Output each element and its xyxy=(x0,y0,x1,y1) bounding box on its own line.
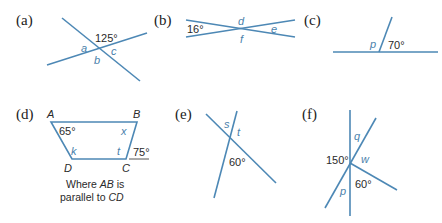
figure-label-a: (a) xyxy=(16,12,33,29)
unknown-p-f: p xyxy=(339,185,346,197)
unknown-t: t xyxy=(117,145,121,157)
unknown-k: k xyxy=(71,145,77,157)
vertex-D: D xyxy=(64,162,72,174)
figure-label-d: (d) xyxy=(16,106,34,123)
unknown-a: a xyxy=(81,42,87,54)
line-e2 xyxy=(206,114,276,183)
figure-c: (c) p 70° xyxy=(304,12,438,52)
line-a1 xyxy=(62,18,140,81)
given-angle-60-f: 60° xyxy=(355,178,372,190)
unknown-b: b xyxy=(94,54,100,66)
unknown-d: d xyxy=(238,15,245,27)
unknown-x: x xyxy=(120,125,127,137)
unknown-w: w xyxy=(361,153,370,165)
figure-e: (e) s t 60° xyxy=(175,106,276,198)
unknown-s: s xyxy=(224,118,230,130)
figure-label-b: (b) xyxy=(154,12,172,29)
figure-d: (d) A B C D 65° 75° x k t Where AB is pa… xyxy=(16,106,150,203)
figure-label-c: (c) xyxy=(304,12,321,29)
given-angle-75: 75° xyxy=(133,146,150,158)
given-angle-125: 125° xyxy=(95,32,118,44)
figure-a: (a) 125° a b c xyxy=(16,12,147,81)
figure-label-e: (e) xyxy=(175,106,192,123)
given-angle-70: 70° xyxy=(388,39,405,51)
given-angle-16: 16° xyxy=(187,23,204,35)
vertex-A: A xyxy=(46,108,54,120)
unknown-p: p xyxy=(369,38,376,50)
unknown-t-e: t xyxy=(237,126,241,138)
unknown-c: c xyxy=(111,45,117,57)
vertex-B: B xyxy=(133,108,140,120)
unknown-e: e xyxy=(271,23,277,35)
note-line-1: Where AB is xyxy=(66,178,124,190)
given-angle-60: 60° xyxy=(229,156,246,168)
figure-b: (b) 16° d e f xyxy=(154,12,295,45)
figure-f: (f) q w p 150° 60° xyxy=(302,106,397,216)
note-line-2: parallel to CD xyxy=(60,191,124,203)
unknown-f: f xyxy=(240,33,244,45)
angle-exercise-diagram: (a) 125° a b c (b) 16° d e f (c) p 70° (… xyxy=(0,0,442,223)
figure-label-f: (f) xyxy=(302,106,317,123)
vertex-C: C xyxy=(122,162,130,174)
given-angle-65: 65° xyxy=(59,125,76,137)
given-angle-150: 150° xyxy=(326,154,349,166)
unknown-q: q xyxy=(354,130,361,142)
